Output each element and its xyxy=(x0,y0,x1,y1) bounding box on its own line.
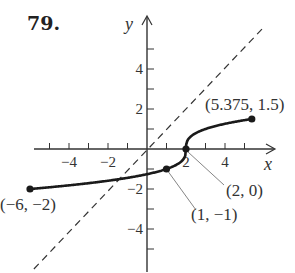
point-marker xyxy=(248,115,255,122)
point-label: (5.375, 1.5) xyxy=(205,95,284,114)
x-axis-label: x xyxy=(263,154,272,174)
x-tick-label: 4 xyxy=(221,154,229,170)
figure: 79. xy−4−22442−2−4(−6, −2)(5.375, 1.5)(2… xyxy=(0,0,295,273)
x-tick-label: −4 xyxy=(61,154,77,170)
point-marker xyxy=(26,185,33,192)
point-marker xyxy=(163,165,170,172)
x-tick-label: −2 xyxy=(100,154,116,170)
point-label: (−6, −2) xyxy=(0,195,56,214)
y-axis-label: y xyxy=(123,14,133,34)
leader-line xyxy=(188,152,224,185)
point-label: (1, −1) xyxy=(191,205,237,224)
y-tick-label: −2 xyxy=(127,181,143,197)
y-tick-label: 2 xyxy=(136,101,144,117)
graph: xy−4−22442−2−4(−6, −2)(5.375, 1.5)(2, 0)… xyxy=(0,0,295,273)
point-label: (2, 0) xyxy=(226,181,263,200)
point-marker xyxy=(182,145,189,152)
y-tick-label: 4 xyxy=(136,61,144,77)
y-tick-label: −4 xyxy=(127,221,143,237)
